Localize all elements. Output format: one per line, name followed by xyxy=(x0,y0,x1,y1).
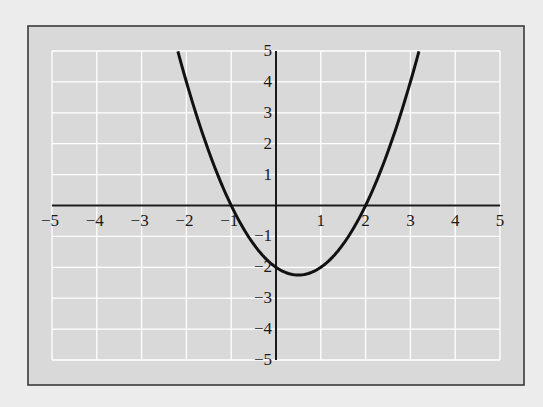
x-tick-label: −1 xyxy=(220,211,238,230)
x-tick-label: 3 xyxy=(406,211,415,230)
y-tick-label: 1 xyxy=(264,165,273,184)
x-tick-label: −2 xyxy=(175,211,193,230)
y-tick-label: 3 xyxy=(264,103,273,122)
parabola-chart: −5−4−3−2−112345 54321−1−2−3−4−5 xyxy=(0,0,543,407)
y-tick-label: −5 xyxy=(254,350,272,369)
y-tick-label: −1 xyxy=(254,226,272,245)
y-tick-label: 4 xyxy=(264,72,273,91)
x-tick-label: 1 xyxy=(317,211,326,230)
y-tick-label: 5 xyxy=(264,41,273,60)
x-tick-label: 5 xyxy=(496,211,505,230)
x-tick-label: 2 xyxy=(361,211,370,230)
y-tick-label: −3 xyxy=(254,288,272,307)
x-tick-label: −4 xyxy=(86,211,105,230)
y-tick-label: −4 xyxy=(254,319,273,338)
x-tick-label: 4 xyxy=(451,211,460,230)
y-tick-label: −2 xyxy=(254,257,272,276)
x-tick-label: −5 xyxy=(41,211,59,230)
y-tick-label: 2 xyxy=(264,134,273,153)
x-tick-label: −3 xyxy=(131,211,149,230)
